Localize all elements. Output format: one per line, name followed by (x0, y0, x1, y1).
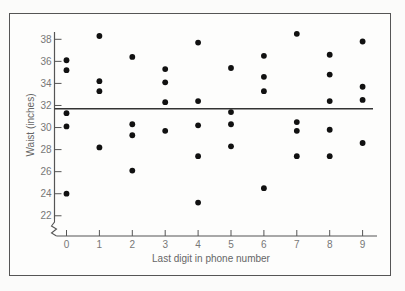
x-tick-label: 2 (130, 239, 136, 250)
y-tick-label: 30 (40, 122, 52, 133)
data-point (228, 143, 234, 149)
data-point (360, 140, 366, 146)
y-axis: 222426283032343638 (40, 32, 61, 236)
x-tick-label: 8 (327, 239, 333, 250)
data-point (327, 153, 333, 159)
x-tick-label: 9 (360, 239, 366, 250)
data-point (327, 127, 333, 133)
data-point (327, 98, 333, 104)
data-point (129, 54, 135, 60)
x-tick-label: 5 (228, 239, 234, 250)
data-point (97, 33, 103, 39)
data-point (162, 99, 168, 105)
data-point (64, 124, 70, 130)
x-tick-label: 6 (261, 239, 267, 250)
data-point (64, 67, 70, 73)
data-point (162, 128, 168, 134)
y-tick-label: 34 (40, 78, 52, 89)
data-point (129, 132, 135, 138)
x-tick-label: 1 (97, 239, 103, 250)
y-tick-label: 32 (40, 100, 52, 111)
data-point (97, 78, 103, 84)
data-point (294, 119, 300, 125)
x-axis: 0123456789 (57, 230, 378, 250)
data-point (195, 40, 201, 46)
data-point (129, 121, 135, 127)
x-tick-label: 7 (294, 239, 300, 250)
y-tick-label: 26 (40, 166, 52, 177)
data-point (195, 200, 201, 206)
data-point (162, 79, 168, 85)
x-tick-label: 3 (162, 239, 168, 250)
y-axis-title: Waist (inches) (25, 94, 36, 157)
data-point (261, 74, 267, 80)
y-tick-label: 38 (40, 34, 52, 45)
data-point (195, 153, 201, 159)
y-tick-label: 22 (40, 210, 52, 221)
data-point (97, 88, 103, 94)
x-axis-title: Last digit in phone number (152, 253, 271, 264)
data-point (129, 168, 135, 174)
data-points (64, 31, 366, 206)
scatter-plot: 222426283032343638 0123456789 Last digit… (0, 0, 405, 291)
data-point (327, 72, 333, 78)
y-tick-label: 24 (40, 188, 52, 199)
data-point (261, 88, 267, 94)
data-point (64, 191, 70, 197)
data-point (360, 84, 366, 90)
data-point (64, 110, 70, 116)
data-point (294, 31, 300, 37)
data-point (162, 66, 168, 72)
data-point (294, 128, 300, 134)
data-point (195, 98, 201, 104)
data-point (294, 153, 300, 159)
data-point (97, 144, 103, 150)
y-tick-label: 36 (40, 56, 52, 67)
data-point (228, 109, 234, 115)
x-tick-label: 0 (64, 239, 70, 250)
data-point (360, 97, 366, 103)
data-point (261, 53, 267, 59)
data-point (64, 57, 70, 63)
x-tick-label: 4 (195, 239, 201, 250)
data-point (228, 121, 234, 127)
data-point (261, 185, 267, 191)
axis-break-icon (52, 219, 57, 236)
data-point (360, 39, 366, 45)
data-point (195, 122, 201, 128)
data-point (228, 65, 234, 71)
data-point (327, 52, 333, 58)
y-tick-label: 28 (40, 144, 52, 155)
